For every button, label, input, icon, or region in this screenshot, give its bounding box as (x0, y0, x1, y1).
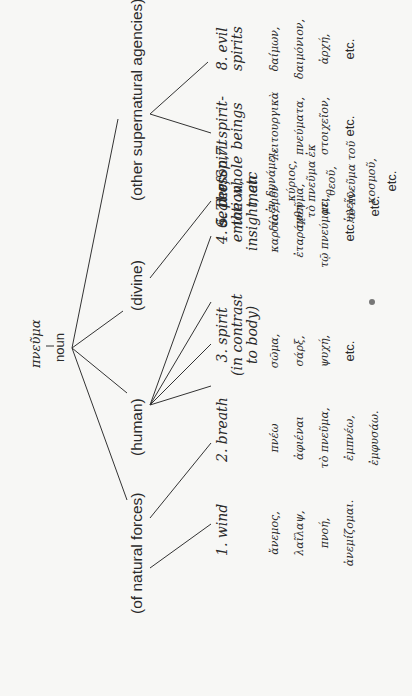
category-evil-spirits: 8. evil spirits (215, 26, 245, 71)
group-natural-forces: (of natural forces) (128, 493, 146, 614)
root-greek-word: πνεῦμα (28, 319, 43, 368)
group-divine: (divine) (128, 260, 146, 311)
words-spirit-vs-body: σῶμα,σάρξ, ψυχή,etc. (262, 316, 362, 386)
root-part-of-speech: noun (52, 333, 67, 362)
category-wind: 1. wind (215, 504, 230, 556)
group-other-supernatural: (other supernatural agencies) (128, 0, 146, 201)
words-evil-spirits: δαίμων,δαιμόνιον, ἀρχή,etc. (262, 14, 362, 84)
category-breath: 2. breath (215, 397, 230, 462)
words-wind: ἄνεμος,λαῖλαψ, πνοή,ἀνεμίζομαι. (262, 498, 362, 568)
pneuma-semantic-tree: πνεῦμα noun (of natural forces) (human) … (0, 0, 412, 696)
group-human: (human) (128, 398, 146, 456)
page-dot-mark (369, 299, 375, 305)
words-spirit-beings: λειτουργικὰπνεύματα, στοιχεῖον,etc. (262, 86, 362, 166)
category-spirit-beings: 7. spirit- beings (215, 96, 245, 156)
category-spirit-vs-body: 3. spirit (in contrast to body) (215, 294, 260, 376)
words-breath: πνέωἀφιέναι τὸ πνεῦμα,ἐμπνέω, ἐμφυσάω. (262, 398, 387, 478)
